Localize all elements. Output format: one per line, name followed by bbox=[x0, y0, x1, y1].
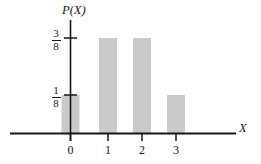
y-tick-label-1-8-denominator: 8 bbox=[48, 98, 64, 109]
bar-x-1 bbox=[99, 38, 117, 134]
y-tick-label-3-8-numerator: 3 bbox=[48, 28, 64, 39]
x-tick-label-1: 1 bbox=[98, 144, 118, 156]
y-tick-label-3-8: 3 8 bbox=[48, 28, 64, 53]
x-tick-label-3: 3 bbox=[166, 144, 186, 156]
probability-distribution-figure: P(X) X 3 8 1 8 0 1 2 3 bbox=[0, 0, 261, 164]
y-tick-label-1-8: 1 8 bbox=[48, 85, 64, 110]
y-axis-title: P(X) bbox=[62, 4, 86, 17]
x-tick-label-0: 0 bbox=[61, 144, 81, 156]
plot-canvas bbox=[0, 0, 261, 164]
x-axis-title: X bbox=[239, 122, 247, 135]
y-tick-label-1-8-numerator: 1 bbox=[48, 85, 64, 96]
x-tick-label-2: 2 bbox=[132, 144, 152, 156]
bar-series bbox=[62, 38, 186, 134]
bar-x-2 bbox=[133, 38, 151, 134]
y-tick-label-3-8-denominator: 8 bbox=[48, 41, 64, 52]
bar-x-3 bbox=[167, 95, 185, 134]
